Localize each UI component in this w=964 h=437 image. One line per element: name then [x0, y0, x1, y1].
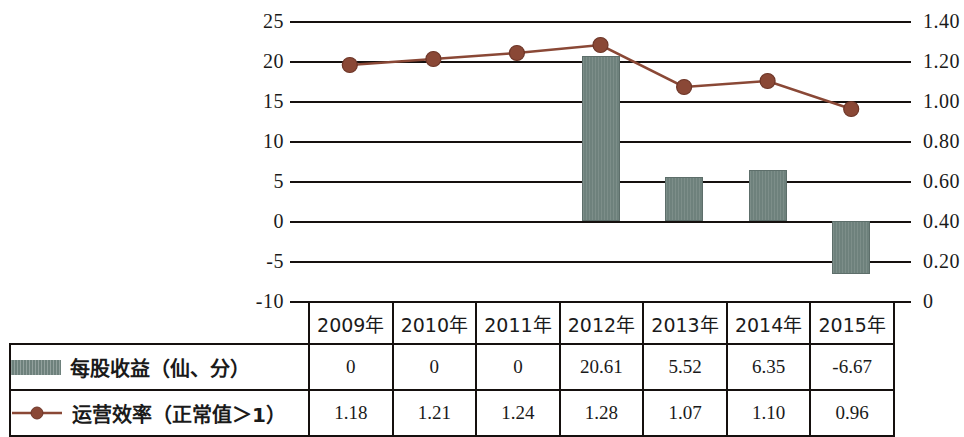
- table-cell: 1.10: [727, 390, 811, 436]
- table-column-header: 2010年: [393, 302, 477, 344]
- data-table-wrapper: 2009年2010年2011年2012年2013年2014年2015年 每股收益…: [9, 301, 893, 429]
- axis-tick-right: [893, 261, 911, 263]
- line-marker: [342, 58, 357, 73]
- table-row: 运营效率（正常值＞1）1.181.211.241.281.071.100.96: [10, 390, 894, 436]
- table-cell: 0: [476, 344, 560, 390]
- axis-tick-right: [893, 301, 911, 303]
- right-axis-tick-label: 1.40: [923, 11, 964, 31]
- axis-tick-left: [290, 101, 308, 103]
- data-table: 2009年2010年2011年2012年2013年2014年2015年 每股收益…: [9, 301, 895, 437]
- left-axis-tick-label: 10: [224, 131, 284, 151]
- right-axis-tick-label: 1.20: [923, 51, 964, 71]
- table-column-header: 2013年: [643, 302, 727, 344]
- left-axis-tick-label: 20: [224, 51, 284, 71]
- axis-tick-right: [893, 221, 911, 223]
- line-marker-icon: [11, 405, 63, 421]
- line-marker: [760, 74, 775, 89]
- table-cell: 20.61: [560, 344, 644, 390]
- left-axis-tick-label: 25: [224, 11, 284, 31]
- axis-tick-left: [290, 181, 308, 183]
- right-axis-tick-label: 0: [923, 291, 964, 311]
- table-cell: 0.96: [810, 390, 894, 436]
- table-row: 每股收益（仙、分）00020.615.526.35-6.67: [10, 344, 894, 390]
- right-axis-tick-label: 0.20: [923, 251, 964, 271]
- table-cell: -6.67: [810, 344, 894, 390]
- line-path: [350, 45, 851, 109]
- line-marker: [593, 38, 608, 53]
- right-axis-tick-label: 0.60: [923, 171, 964, 191]
- right-axis-tick-label: 0.40: [923, 211, 964, 231]
- table-column-header: 2009年: [309, 302, 393, 344]
- table-cell: 1.18: [309, 390, 393, 436]
- axis-tick-right: [893, 101, 911, 103]
- table-cell: 1.28: [560, 390, 644, 436]
- line-marker: [677, 80, 692, 95]
- table-column-header: 2012年: [560, 302, 644, 344]
- left-axis-tick-label: 15: [224, 91, 284, 111]
- axis-tick-left: [290, 261, 308, 263]
- axis-tick-right: [893, 61, 911, 63]
- axis-tick-left: [290, 141, 308, 143]
- bar-swatch-icon: [11, 360, 61, 375]
- line-series: [308, 21, 893, 301]
- legend-label: 每股收益（仙、分）: [70, 353, 250, 382]
- left-axis-tick-label: -5: [224, 251, 284, 271]
- axis-tick-left: [290, 221, 308, 223]
- table-cell: 1.07: [643, 390, 727, 436]
- line-marker: [844, 102, 859, 117]
- axis-tick-right: [893, 181, 911, 183]
- table-header-row: 2009年2010年2011年2012年2013年2014年2015年: [10, 302, 894, 344]
- plot-area: 2520151050-5-10 1.401.201.000.800.600.40…: [308, 21, 893, 301]
- legend-cell: 每股收益（仙、分）: [10, 344, 309, 390]
- line-marker: [509, 46, 524, 61]
- table-cell: 1.21: [393, 390, 477, 436]
- table-cell: 5.52: [643, 344, 727, 390]
- table-cell: 6.35: [727, 344, 811, 390]
- left-axis-tick-label: 5: [224, 171, 284, 191]
- axis-tick-right: [893, 21, 911, 23]
- table-column-header: 2015年: [810, 302, 894, 344]
- axis-tick-left: [290, 61, 308, 63]
- legend-label: 运营效率（正常值＞1）: [72, 399, 286, 428]
- table-cell: 0: [393, 344, 477, 390]
- axis-tick-right: [893, 141, 911, 143]
- legend-cell: 运营效率（正常值＞1）: [10, 390, 309, 436]
- table-cell: 0: [309, 344, 393, 390]
- table-corner-cell: [10, 302, 309, 344]
- table-column-header: 2011年: [476, 302, 560, 344]
- left-axis-tick-label: 0: [224, 211, 284, 231]
- right-axis-tick-label: 1.00: [923, 91, 964, 111]
- table-column-header: 2014年: [727, 302, 811, 344]
- line-marker: [426, 52, 441, 67]
- axis-tick-left: [290, 21, 308, 23]
- table-cell: 1.24: [476, 390, 560, 436]
- right-axis-tick-label: 0.80: [923, 131, 964, 151]
